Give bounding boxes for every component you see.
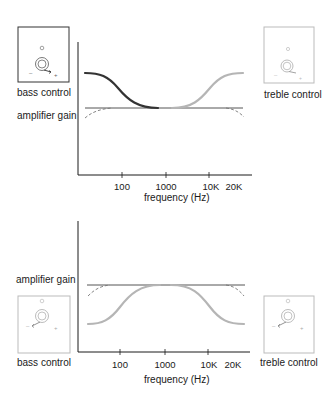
top-treble-control-label: treble control — [264, 90, 322, 100]
top-chart — [78, 42, 252, 178]
bottom-x-axis-label: frequency (Hz) — [144, 375, 210, 385]
bottom-bass-cut-curve — [88, 285, 160, 324]
plus-sign: + — [300, 325, 304, 331]
bottom-treble-control-panel: – + — [264, 296, 314, 353]
top-x-axis-label: frequency (Hz) — [144, 193, 210, 203]
top-treble-boost-curve — [172, 73, 243, 108]
bottom-tick-label-20k: 20K — [225, 360, 242, 370]
plus-sign: + — [54, 72, 58, 78]
bottom-y-axis-label: amplifier gain — [16, 275, 75, 285]
bottom-treble-cut-curve — [171, 285, 244, 324]
bottom-bass-control-label: bass control — [17, 358, 71, 368]
bottom-tick-label-100: 100 — [112, 360, 128, 370]
bottom-left-rolloff-dashed — [88, 285, 110, 296]
bottom-chart — [78, 221, 250, 355]
top-bass-control-label: bass control — [17, 88, 71, 98]
top-treble-control-panel: – + — [264, 27, 314, 83]
bottom-tick-label-1000: 1000 — [154, 360, 175, 370]
plus-sign: + — [54, 325, 58, 331]
top-y-axis-label: amplifier gain — [17, 111, 76, 121]
bottom-treble-control-label: treble control — [260, 358, 318, 368]
top-tick-label-20k: 20K — [226, 182, 243, 192]
top-tick-label-1000: 1000 — [155, 182, 176, 192]
plus-sign: + — [299, 75, 302, 81]
top-bass-boost-curve — [85, 73, 158, 108]
top-tick-label-100: 100 — [114, 182, 130, 192]
top-left-rolloff-dashed — [85, 108, 112, 118]
bottom-tick-label-10k: 10K — [201, 360, 218, 370]
top-bass-control-panel: – + — [18, 27, 69, 82]
top-right-rolloff-dashed — [226, 108, 244, 117]
bottom-right-rolloff-dashed — [226, 285, 244, 296]
bottom-bass-control-panel: – + — [18, 296, 70, 353]
top-tick-label-10k: 10K — [203, 182, 220, 192]
